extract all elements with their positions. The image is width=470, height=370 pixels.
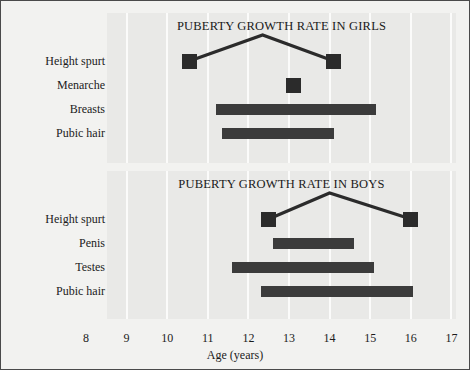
x-axis-title: Age (years)	[1, 348, 469, 363]
gridline-age-10	[166, 13, 168, 163]
x-tick-13: 13	[276, 331, 302, 346]
girls-category-label-breasts: Breasts	[70, 103, 105, 116]
boys-category-labels: Height spurtPenisTestesPubic hair	[1, 171, 105, 319]
girls-chart-panel: PUBERTY GROWTH RATE IN GIRLS	[107, 13, 456, 163]
boys-bar-penis	[273, 238, 354, 249]
gridline-age-17	[450, 13, 452, 163]
boys-chart-panel: PUBERTY GROWTH RATE IN BOYS	[107, 171, 456, 319]
girls-category-labels: Height spurtMenarcheBreastsPubic hair	[1, 13, 105, 163]
gridline-age-15	[369, 13, 371, 163]
boys-bar-pubic-hair	[261, 286, 413, 297]
gridline-age-15	[369, 171, 371, 319]
gridline-age-12	[247, 13, 249, 163]
gridline-age-11	[207, 171, 209, 319]
boys-height-spurt-marker-start	[261, 212, 276, 227]
x-tick-14: 14	[317, 331, 343, 346]
gridline-age-9	[126, 171, 128, 319]
puberty-growth-chart-figure: Height spurtMenarcheBreastsPubic hair PU…	[0, 0, 470, 370]
gridline-age-10	[166, 171, 168, 319]
boys-bar-testes	[232, 262, 374, 273]
boys-category-label-penis: Penis	[79, 237, 105, 250]
girls-bar-breasts	[216, 104, 376, 115]
boys-category-label-height-spurt: Height spurt	[45, 213, 105, 226]
x-tick-16: 16	[398, 331, 424, 346]
gridline-age-16	[410, 171, 412, 319]
gridline-age-11	[207, 13, 209, 163]
boys-category-label-testes: Testes	[75, 261, 105, 274]
girls-gridlines	[107, 13, 456, 163]
boys-category-label-pubic-hair: Pubic hair	[56, 285, 105, 298]
boys-height-spurt-marker-end	[403, 212, 418, 227]
girls-marker-menarche	[286, 78, 301, 93]
x-tick-10: 10	[154, 331, 180, 346]
girls-height-spurt-marker-end	[326, 54, 341, 69]
x-tick-9: 9	[114, 331, 140, 346]
girls-chart-title: PUBERTY GROWTH RATE IN GIRLS	[107, 19, 456, 34]
girls-category-label-pubic-hair: Pubic hair	[56, 127, 105, 140]
gridline-age-16	[410, 13, 412, 163]
x-tick-15: 15	[357, 331, 383, 346]
girls-category-label-menarche: Menarche	[57, 79, 105, 92]
girls-height-spurt-marker-start	[182, 54, 197, 69]
x-tick-11: 11	[195, 331, 221, 346]
gridline-age-9	[126, 13, 128, 163]
gridline-age-14	[329, 13, 331, 163]
girls-bar-pubic-hair	[222, 128, 334, 139]
x-tick-8: 8	[73, 331, 99, 346]
gridline-age-17	[450, 171, 452, 319]
gridline-age-12	[247, 171, 249, 319]
x-tick-12: 12	[235, 331, 261, 346]
x-tick-17: 17	[438, 331, 464, 346]
boys-chart-title: PUBERTY GROWTH RATE IN BOYS	[107, 177, 456, 192]
girls-category-label-height-spurt: Height spurt	[45, 55, 105, 68]
